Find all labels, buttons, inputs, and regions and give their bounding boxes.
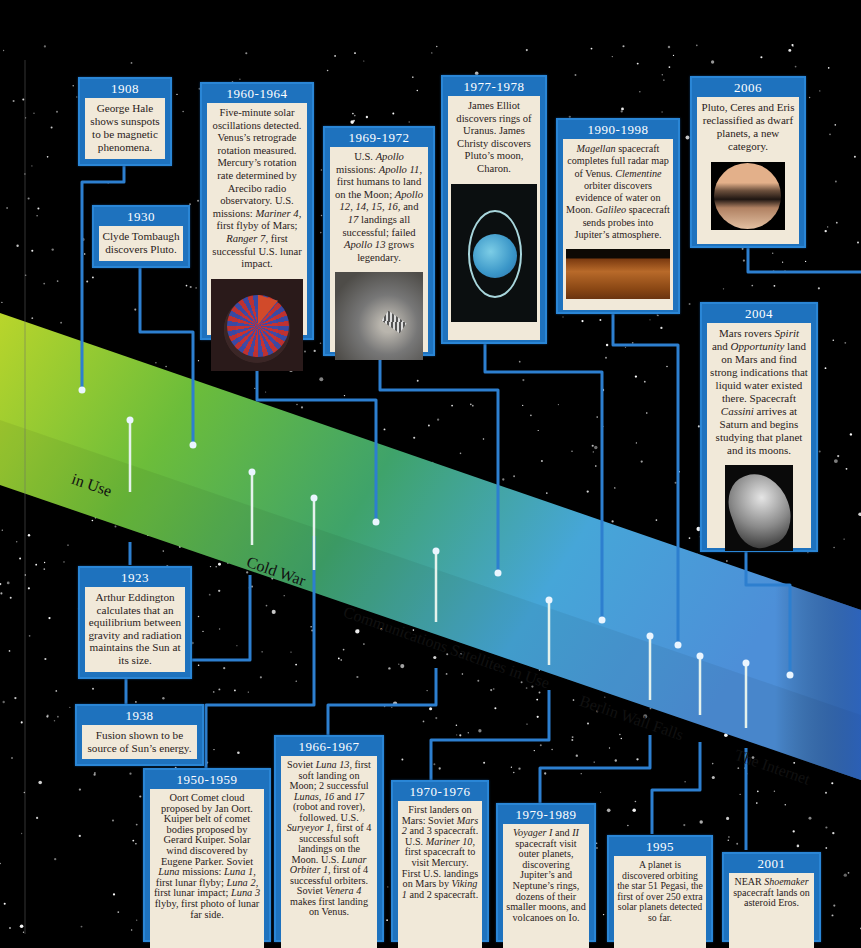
event-card-1960-1964: 1960-1964 Five-minute solar oscillations… [200,82,314,340]
event-year: 1995 [609,837,711,856]
event-text: Mars rovers Spirit and Opportunity land … [710,327,808,457]
event-description: Magellan spacecraft completes full radar… [563,139,673,310]
event-description: Clyde Tombaugh discovers Pluto. [99,226,183,261]
event-description: A planet is discovered orbiting the star… [614,856,706,948]
event-year: 1990-1998 [558,120,678,139]
event-description: George Hale shows sunspots to be magneti… [85,98,165,159]
event-description: Five-minute solar oscillations detected.… [207,103,307,335]
event-text: Magellan spacecraft completes full radar… [566,143,670,241]
event-year: 2004 [702,304,816,323]
event-description: Fusion shown to be source of Sun’s energ… [82,725,197,759]
event-year: 1970-1976 [393,782,487,801]
event-year: 1969-1972 [325,128,433,147]
event-year: 1923 [80,568,190,587]
saturn-moon-image [725,465,793,551]
pluto-image [711,162,785,230]
event-description: Pluto, Ceres and Eris reclassified as dw… [697,97,799,244]
event-year: 1938 [77,706,202,725]
event-text: Pluto, Ceres and Eris reclassified as dw… [700,101,796,153]
event-year: 2006 [692,78,804,97]
event-card-1923: 1923 Arthur Eddington calculates that an… [78,566,192,679]
event-card-2004: 2004 Mars rovers Spirit and Opportunity … [700,302,818,552]
event-card-1938: 1938 Fusion shown to be source of Sun’s … [75,704,204,766]
event-description: Mars rovers Spirit and Opportunity land … [707,323,811,548]
sun-interior-image [211,279,303,371]
event-text: U.S. Apollo missions: Apollo 11, first h… [333,151,425,264]
event-year: 1950-1959 [145,770,269,789]
event-text: Five-minute solar oscillations detected.… [210,107,304,271]
event-description: James Elliot discovers rings of Uranus. … [448,96,540,340]
event-description: U.S. Apollo missions: Apollo 11, first h… [330,147,428,352]
event-year: 1908 [80,79,170,98]
event-card-1977-1978: 1977-1978 James Elliot discovers rings o… [441,75,547,344]
venus-surface-image [566,249,670,299]
event-year: 1930 [94,207,188,226]
event-year: 1966-1967 [276,737,382,756]
event-card-1930: 1930 Clyde Tombaugh discovers Pluto. [92,205,190,268]
event-card-2006: 2006 Pluto, Ceres and Eris reclassified … [690,76,806,248]
event-description: Arthur Eddington calculates that an equi… [85,587,185,672]
bottom-blur-strip [0,910,861,934]
event-year: 1977-1978 [443,77,545,96]
event-year: 1979-1989 [498,805,594,824]
event-text: James Elliot discovers rings of Uranus. … [451,100,537,176]
uranus-rings-image [451,184,537,322]
event-card-1969-1972: 1969-1972 U.S. Apollo missions: Apollo 1… [323,126,435,356]
event-year: 2001 [724,854,819,873]
event-card-1908: 1908 George Hale shows sunspots to be ma… [78,77,172,166]
event-card-1990-1998: 1990-1998 Magellan spacecraft completes … [556,118,680,314]
moon-footprint-image [335,272,423,360]
event-year: 1960-1964 [202,84,312,103]
